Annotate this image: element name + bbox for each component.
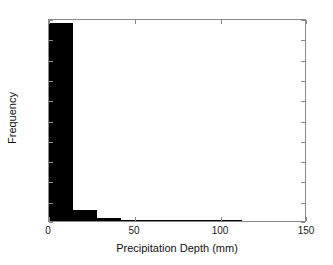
x-tick-mark-top: [49, 20, 50, 24]
y-tick-mark: [49, 101, 53, 102]
bars-layer: [49, 20, 305, 221]
histogram-bar: [145, 220, 169, 221]
histogram-figure: 0100020003000400050006000700080009000100…: [0, 0, 333, 265]
y-tick-mark-right: [301, 142, 305, 143]
y-tick-mark-right: [301, 61, 305, 62]
y-tick-mark-right: [301, 20, 305, 21]
y-tick-mark-right: [301, 101, 305, 102]
x-tick-mark: [306, 217, 307, 221]
y-tick-mark: [49, 182, 53, 183]
x-tick-mark-top: [306, 20, 307, 24]
y-tick-mark: [49, 122, 53, 123]
x-tick-mark-top: [135, 20, 136, 24]
x-tick-mark: [49, 217, 50, 221]
x-tick-label: 100: [212, 226, 229, 236]
plot-area: [48, 19, 306, 222]
y-tick-mark-right: [301, 162, 305, 163]
x-tick-mark-top: [221, 20, 222, 24]
histogram-bar: [121, 220, 145, 221]
x-tick-label: 150: [298, 226, 315, 236]
x-tick-label: 50: [128, 226, 139, 236]
y-tick-mark: [49, 142, 53, 143]
x-axis-title: Precipitation Depth (mm): [48, 242, 306, 254]
histogram-bar: [193, 220, 217, 221]
y-tick-mark: [49, 222, 53, 223]
histogram-bar: [169, 220, 193, 221]
y-tick-mark-right: [301, 81, 305, 82]
y-tick-mark: [49, 203, 53, 204]
y-tick-mark-right: [301, 182, 305, 183]
y-tick-mark-right: [301, 222, 305, 223]
histogram-bar: [73, 210, 97, 221]
y-tick-mark: [49, 40, 53, 41]
y-tick-mark: [49, 61, 53, 62]
y-tick-mark-right: [301, 122, 305, 123]
y-tick-mark: [49, 81, 53, 82]
x-tick-label: 0: [45, 226, 51, 236]
y-axis-title: Frequency: [6, 68, 18, 168]
y-tick-mark: [49, 162, 53, 163]
histogram-bar: [97, 218, 121, 221]
x-tick-mark: [135, 217, 136, 221]
y-tick-mark-right: [301, 40, 305, 41]
x-tick-mark: [221, 217, 222, 221]
y-tick-mark-right: [301, 203, 305, 204]
